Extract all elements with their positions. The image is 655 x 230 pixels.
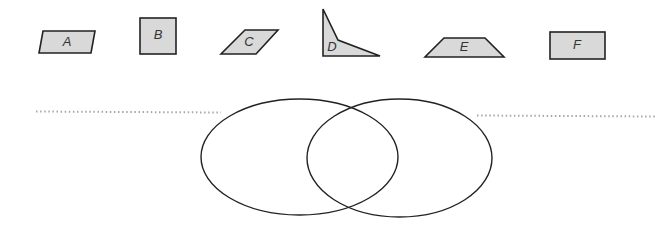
venn-left-ellipse[interactable]	[201, 99, 398, 215]
venn-right-ellipse[interactable]	[307, 99, 492, 217]
left-answer-line[interactable]	[36, 112, 221, 113]
shape-d-concave-quadrilateral: D	[323, 9, 380, 56]
diagram-canvas: A B C D E F	[0, 0, 655, 230]
shape-f-label: F	[573, 37, 582, 52]
venn-diagram	[201, 99, 492, 217]
shape-a-parallelogram: A	[39, 31, 95, 53]
shape-c-label: C	[244, 34, 254, 49]
shape-d-label: D	[327, 39, 336, 54]
shape-b-square: B	[140, 18, 176, 54]
right-answer-line[interactable]	[477, 116, 655, 117]
shape-e-label: E	[460, 39, 469, 54]
shape-f-rectangle: F	[550, 32, 605, 59]
shape-c-rhombus: C	[221, 30, 278, 54]
shape-a-label: A	[62, 34, 72, 49]
shape-b-label: B	[154, 27, 163, 42]
shape-e-trapezoid: E	[425, 38, 504, 57]
